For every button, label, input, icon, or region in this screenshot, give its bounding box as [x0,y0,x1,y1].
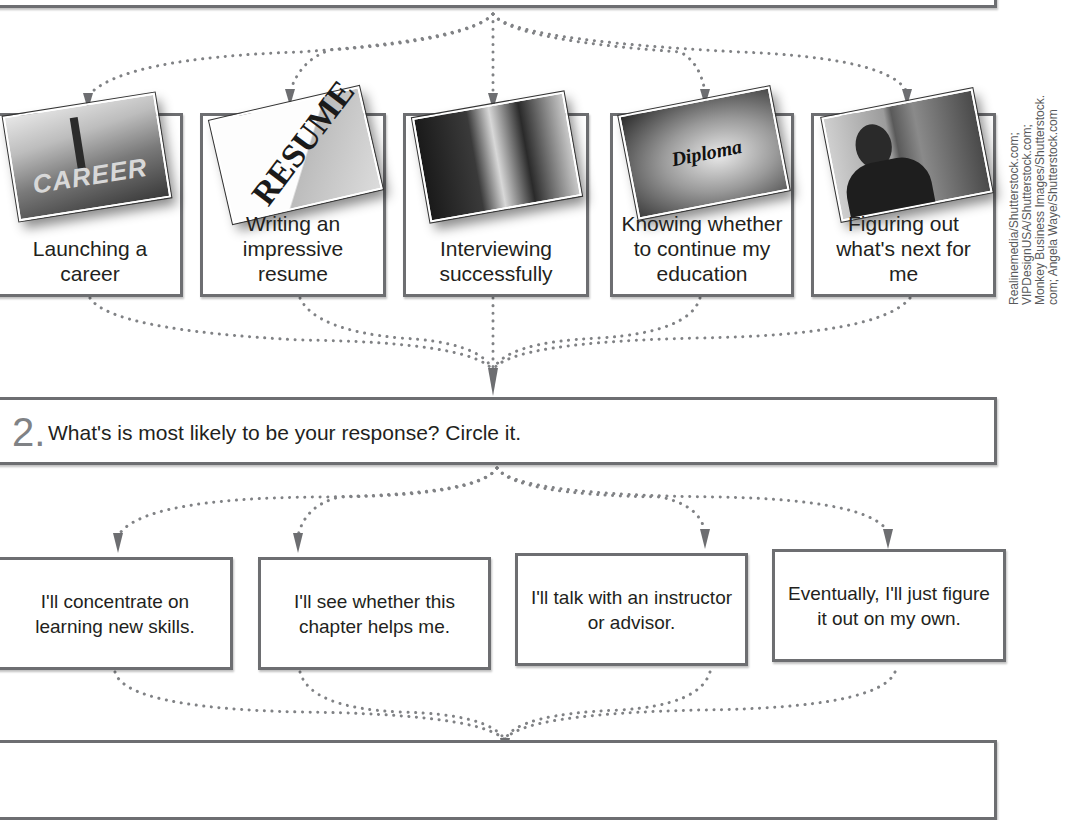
job-interview-photo [412,91,582,222]
response-text: I'll see whether this chapter helps me. [271,589,478,639]
response-option-figure-out-own[interactable]: Eventually, I'll just figure it out on m… [772,549,1006,662]
option-card-whats-next[interactable]: Figuring out what's next for me [811,113,996,297]
card-label: Launching a career [0,236,180,286]
step-prompt: What's is most likely to be your respons… [48,421,521,445]
photo-caption: CAREER [14,149,167,203]
option-card-interviewing[interactable]: Interviewing successfully [403,113,589,297]
step-number: 2. [12,406,45,458]
step-1-box [0,0,997,8]
credit-line: com; Angela Waye/Shutterstock.com [1047,45,1060,305]
resume-clip-photo: RESUME [209,86,383,224]
option-card-launching-career[interactable]: CAREER Launching a career [0,113,183,297]
card-label: Writing an impressive resume [203,211,383,286]
photo-caption: Diploma [670,135,744,171]
option-card-continue-education[interactable]: Diploma Knowing whether to continue my e… [610,113,794,297]
option-card-writing-resume[interactable]: RESUME Writing an impressive resume [200,113,386,297]
diploma-photo: Diploma [618,86,789,219]
student-thinking-photo [821,88,992,221]
card-label: Figuring out what's next for me [814,211,993,286]
response-text: I'll concentrate on learning new skills. [10,589,220,639]
photo-credit: Realinemedia/Shutterstock.com; VIPDesign… [1008,45,1060,305]
response-text: Eventually, I'll just figure it out on m… [785,581,993,631]
step-3-box [0,740,997,820]
card-label: Knowing whether to continue my education [613,211,791,286]
response-option-chapter-helps[interactable]: I'll see whether this chapter helps me. [258,557,491,670]
step-2-box: 2. What's is most likely to be your resp… [0,397,997,465]
response-option-talk-advisor[interactable]: I'll talk with an instructor or advisor. [515,553,748,666]
career-road-photo: CAREER [3,93,172,222]
photo-caption: RESUME [244,74,362,213]
person-body-icon [841,152,935,217]
card-label: Interviewing successfully [406,236,586,286]
response-option-learn-skills[interactable]: I'll concentrate on learning new skills. [0,557,233,670]
response-text: I'll talk with an instructor or advisor. [528,585,735,635]
